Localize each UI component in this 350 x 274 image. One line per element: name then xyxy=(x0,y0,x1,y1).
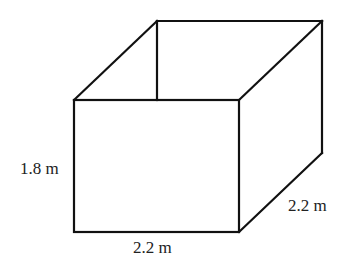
height-label: 1.8 m xyxy=(20,159,59,178)
bottom-right-depth-edge xyxy=(239,153,322,232)
top-left-depth-edge xyxy=(74,21,157,100)
open-box-diagram: 1.8 m 2.2 m 2.2 m xyxy=(0,0,350,274)
top-right-depth-edge xyxy=(239,21,322,100)
depth-label: 2.2 m xyxy=(288,196,327,215)
width-label: 2.2 m xyxy=(133,238,172,257)
front-face xyxy=(74,100,239,232)
